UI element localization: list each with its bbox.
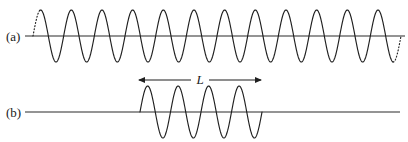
- wave-figure-svg: (a) L (b): [0, 0, 408, 142]
- panel-a-wave-tail-dotted: [393, 36, 401, 62]
- panel-b-label: (b): [6, 105, 21, 120]
- length-annotation: L: [138, 72, 262, 87]
- panel-a-wave-lead-dotted: [33, 10, 40, 36]
- panel-a: (a): [6, 10, 405, 62]
- panel-b: (b): [6, 86, 400, 138]
- length-label-L: L: [195, 72, 203, 87]
- figure-container: (a) L (b): [0, 0, 408, 142]
- arrowhead-left-icon: [138, 77, 145, 83]
- panel-a-label: (a): [6, 29, 20, 44]
- arrowhead-right-icon: [255, 77, 262, 83]
